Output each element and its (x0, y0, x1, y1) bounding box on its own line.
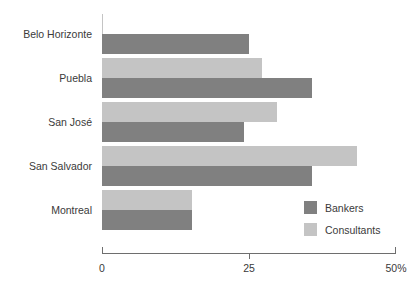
legend-item-bankers: Bankers (304, 198, 380, 217)
bar-bankers (102, 166, 312, 186)
legend-swatch-bankers (304, 201, 317, 214)
category-label: Montreal (0, 204, 92, 216)
legend-label-bankers: Bankers (325, 202, 364, 214)
category-label: San José (0, 116, 92, 128)
bar-bankers (102, 34, 249, 54)
category-axis-labels: Belo Horizonte Puebla San José San Salva… (0, 14, 102, 238)
bar-chart: Belo Horizonte Puebla San José San Salva… (0, 0, 416, 290)
bar-consultants (102, 146, 357, 166)
category-label: Puebla (0, 72, 92, 84)
bar-consultants (102, 102, 277, 122)
x-axis-tick (249, 253, 250, 259)
legend-label-consultants: Consultants (325, 224, 380, 236)
x-axis-tick (395, 247, 396, 254)
bar-bankers (102, 78, 312, 98)
x-axis-tick-label: 25 (243, 262, 255, 274)
bar-consultants (102, 58, 262, 78)
x-axis-tick-label: 0 (99, 262, 105, 274)
bar-bankers (102, 210, 192, 230)
category-label: San Salvador (0, 160, 92, 172)
legend-swatch-consultants (304, 223, 317, 236)
legend-item-consultants: Consultants (304, 220, 380, 239)
bar-consultants (102, 14, 103, 34)
x-axis-tick (102, 247, 103, 254)
bar-bankers (102, 122, 244, 142)
x-axis-tick-label: 50% (385, 262, 406, 274)
bar-consultants (102, 190, 192, 210)
category-label: Belo Horizonte (0, 28, 92, 40)
legend: Bankers Consultants (304, 198, 380, 242)
